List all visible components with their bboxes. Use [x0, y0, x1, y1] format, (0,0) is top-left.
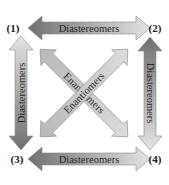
node-4: (4)	[149, 153, 162, 166]
node-1: (1)	[7, 22, 20, 35]
label-left: Diastereomers	[16, 63, 27, 124]
label-bottom: Diastereomers	[59, 154, 120, 165]
arrow-right-diastereomers: Diastereomers	[138, 37, 162, 150]
node-2: (2)	[149, 22, 162, 35]
stereoisomer-diagram: Diastereomers Diastereomers Diastereomer…	[0, 0, 169, 185]
label-top: Diastereomers	[59, 23, 120, 34]
node-3: (3)	[11, 153, 24, 166]
arrow-bottom-diastereomers: Diastereomers	[28, 147, 150, 171]
label-right: Diastereomers	[145, 63, 156, 124]
arrow-top-diastereomers: Diastereomers	[28, 16, 150, 40]
arrow-left-diastereomers: Diastereomers	[9, 36, 33, 150]
